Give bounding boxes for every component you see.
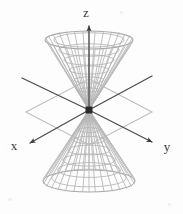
axis-label-x: x [11,138,18,153]
axis-label-z: z [83,5,89,20]
lower-radial-lines [43,110,135,192]
lower-nappe [43,110,135,192]
light-cone-figure: z x y [0,0,183,214]
origin-point [86,107,93,114]
figure-canvas: z x y [0,0,183,214]
axis-label-y: y [164,139,171,154]
